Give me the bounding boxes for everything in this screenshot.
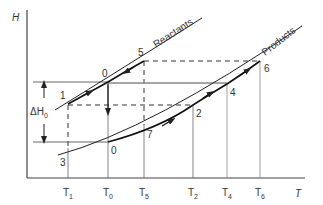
reactants-label: Reactants bbox=[151, 16, 195, 50]
tick-t4: T4 bbox=[222, 187, 232, 200]
point-2: 2 bbox=[196, 108, 202, 119]
products-label: Products bbox=[259, 25, 297, 58]
y-axis-label: H bbox=[12, 12, 20, 23]
products-curve-bold bbox=[108, 61, 260, 142]
point-3: 3 bbox=[60, 157, 66, 168]
point-5: 5 bbox=[138, 47, 144, 58]
tick-t1: T1 bbox=[63, 187, 73, 200]
tick-t0: T0 bbox=[103, 187, 113, 200]
point-0-lower: 0 bbox=[111, 145, 117, 156]
tick-t5: T5 bbox=[139, 187, 149, 200]
point-7: 7 bbox=[147, 129, 153, 140]
point-4: 4 bbox=[230, 87, 236, 98]
reactants-arrow-2 bbox=[126, 67, 134, 72]
delta-h-label: ΔH0 bbox=[30, 106, 48, 119]
point-6: 6 bbox=[264, 63, 270, 74]
point-1: 1 bbox=[60, 90, 66, 101]
tick-t6: T6 bbox=[255, 187, 265, 200]
enthalpy-diagram: Reactants Products H T T1 T0 T5 T2 T4 T6… bbox=[0, 0, 323, 205]
point-0-upper: 0 bbox=[102, 68, 108, 79]
products-arrow-3 bbox=[239, 70, 248, 76]
products-arrow-2 bbox=[203, 93, 211, 98]
x-axis-label: T bbox=[295, 188, 302, 199]
tick-t2: T2 bbox=[188, 187, 198, 200]
